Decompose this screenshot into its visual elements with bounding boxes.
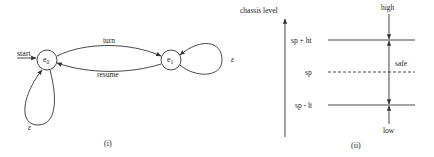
e0-loop-label: ε [28,123,32,132]
axis-label: chassis level [240,6,278,15]
level-sp-plus-ht: sp + ht [291,36,415,45]
transition-e0-self-loop: ε [25,70,55,132]
start-transition: start [17,49,36,58]
chassis-level-diagram: chassis level sp + ht sp sp - lt high sa… [240,3,415,150]
figure-canvas: start e0 e1 turn resume ε [0,0,434,157]
region-low: low [383,106,395,135]
turn-label: turn [103,36,115,45]
transition-resume: resume [57,63,161,79]
state-e0: e0 [37,50,57,70]
start-label: start [17,49,32,58]
e1-loop-label: ε [231,55,235,64]
level-sp-minus-lt-label: sp - lt [295,101,313,110]
state-machine-diagram: start e0 e1 turn resume ε [17,36,235,148]
level-sp-label: sp [305,68,312,77]
region-low-label: low [383,126,395,135]
level-sp-minus-lt: sp - lt [295,101,415,110]
caption-ii: (ii) [351,141,361,150]
region-safe: safe [389,41,408,104]
state-e1: e1 [161,50,181,70]
region-safe-label: safe [395,59,408,68]
region-high-label: high [381,3,395,12]
caption-i: (i) [104,139,112,148]
resume-label: resume [97,70,119,79]
transition-e1-self-loop: ε [180,44,235,75]
e1-loop-arrow-icon [180,44,222,75]
region-high: high [381,3,395,39]
level-sp-plus-ht-label: sp + ht [291,36,312,45]
e0-loop-arrow-icon [25,70,55,125]
transition-turn: turn [57,36,161,56]
level-sp: sp [305,68,415,77]
turn-arrow-icon [57,46,161,57]
